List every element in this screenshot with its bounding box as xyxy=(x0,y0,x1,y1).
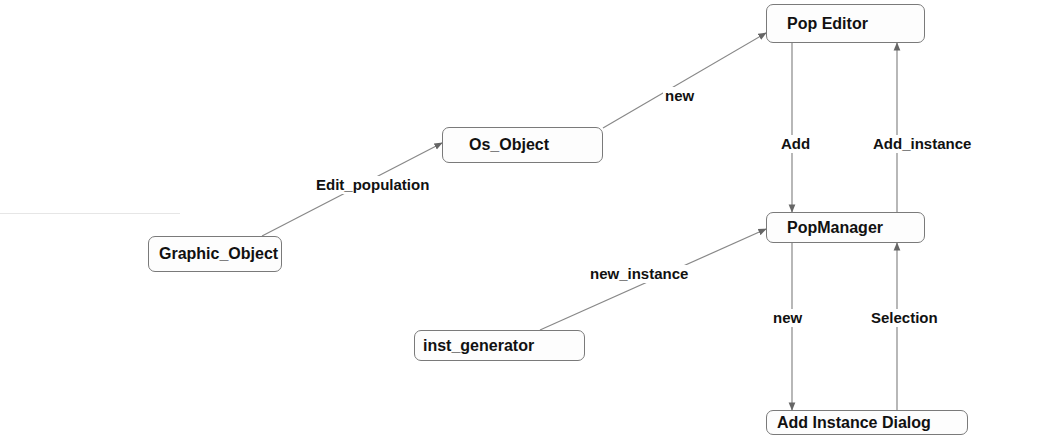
node-label: inst_generator xyxy=(423,337,534,355)
node-label: PopManager xyxy=(787,219,883,237)
node-graphic-object[interactable]: Graphic_Object xyxy=(148,236,282,272)
node-label: Graphic_Object xyxy=(159,245,278,263)
node-label: Pop Editor xyxy=(787,15,868,33)
edge-label-new-dialog: new xyxy=(771,309,804,327)
edge-label-edit-population: Edit_population xyxy=(314,176,431,194)
edge-new-pop-editor xyxy=(603,33,766,128)
diagram-canvas: Graphic_Object Os_Object Pop Editor PopM… xyxy=(0,0,1049,442)
edge-label-add: Add xyxy=(779,135,812,153)
node-label: Os_Object xyxy=(469,136,549,154)
node-pop-manager[interactable]: PopManager xyxy=(766,212,925,243)
node-add-instance-dialog[interactable]: Add Instance Dialog xyxy=(766,410,968,435)
node-os-object[interactable]: Os_Object xyxy=(442,127,603,163)
node-inst-generator[interactable]: inst_generator xyxy=(414,330,585,361)
node-pop-editor[interactable]: Pop Editor xyxy=(766,4,925,43)
edge-label-selection: Selection xyxy=(869,309,940,327)
edge-label-new-pop-editor: new xyxy=(663,87,696,105)
edge-label-new-instance: new_instance xyxy=(588,265,690,283)
edge-label-add-instance: Add_instance xyxy=(871,135,973,153)
node-label: Add Instance Dialog xyxy=(777,414,931,432)
